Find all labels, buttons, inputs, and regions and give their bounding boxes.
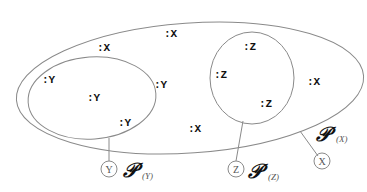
powerset-y-subscript: (Y) [142, 171, 153, 181]
element-z: :Z [259, 98, 273, 110]
node-y-label: Y [105, 164, 112, 175]
powerset-z-subscript: (Z) [268, 172, 279, 182]
element-y: :Y [87, 92, 101, 104]
element-x: :X [188, 123, 202, 135]
element-y: :Y [42, 74, 56, 86]
powerset-y-label: 𝒫 [122, 158, 143, 182]
element-y: :Y [118, 117, 132, 129]
element-z: :Z [214, 69, 228, 81]
powerset-z-label: 𝒫 [247, 159, 268, 183]
set-x-ellipse [12, 11, 367, 165]
node-z-label: Z [233, 164, 239, 175]
powerset-diagram: :X :X :X :X :Y :Y :Y :Y :Z :Z :Z Y Z X 𝒫… [0, 0, 367, 192]
powerset-x-label: 𝒫 [315, 122, 336, 146]
element-z: :Z [243, 41, 257, 53]
element-y: :Y [154, 79, 168, 91]
element-x: :X [307, 76, 321, 88]
powerset-x-subscript: (X) [336, 134, 348, 144]
connector-z [236, 121, 243, 161]
node-x-label: X [318, 156, 326, 167]
element-x: :X [97, 42, 111, 54]
element-x: :X [164, 28, 178, 40]
